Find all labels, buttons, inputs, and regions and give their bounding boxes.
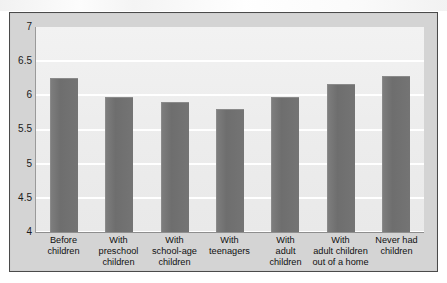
gridline (36, 94, 424, 96)
bar (382, 76, 410, 232)
x-axis-label: Never hadchildren (363, 235, 430, 257)
y-tick-label: 4 (2, 227, 32, 237)
x-axis-label-line: out of a home (307, 257, 374, 268)
bar (161, 102, 189, 232)
x-axis-label-line: children (363, 246, 430, 257)
y-tick-label: 6.5 (2, 56, 32, 66)
chart-figure: 7 6.5 6 5.5 5 4.5 4 BeforechildrenWithpr… (0, 0, 447, 283)
y-tick-label: 4.5 (2, 193, 32, 203)
bar (327, 84, 355, 232)
y-tick-label: 5.5 (2, 124, 32, 134)
bar (216, 109, 244, 232)
x-axis-label-line: Never had (363, 235, 430, 246)
bar (105, 97, 133, 232)
scan-artifact-strip (0, 0, 447, 11)
y-axis-tick-labels: 7 6.5 6 5.5 5 4.5 4 (0, 0, 32, 283)
gridline (36, 60, 424, 62)
bar (50, 78, 78, 232)
y-tick-label: 5 (2, 159, 32, 169)
plot-area (36, 27, 424, 232)
bar (271, 97, 299, 232)
y-tick-label: 6 (2, 90, 32, 100)
y-tick-label: 7 (2, 22, 32, 32)
x-axis-line (36, 232, 424, 233)
x-axis-label-line: children (141, 257, 208, 268)
